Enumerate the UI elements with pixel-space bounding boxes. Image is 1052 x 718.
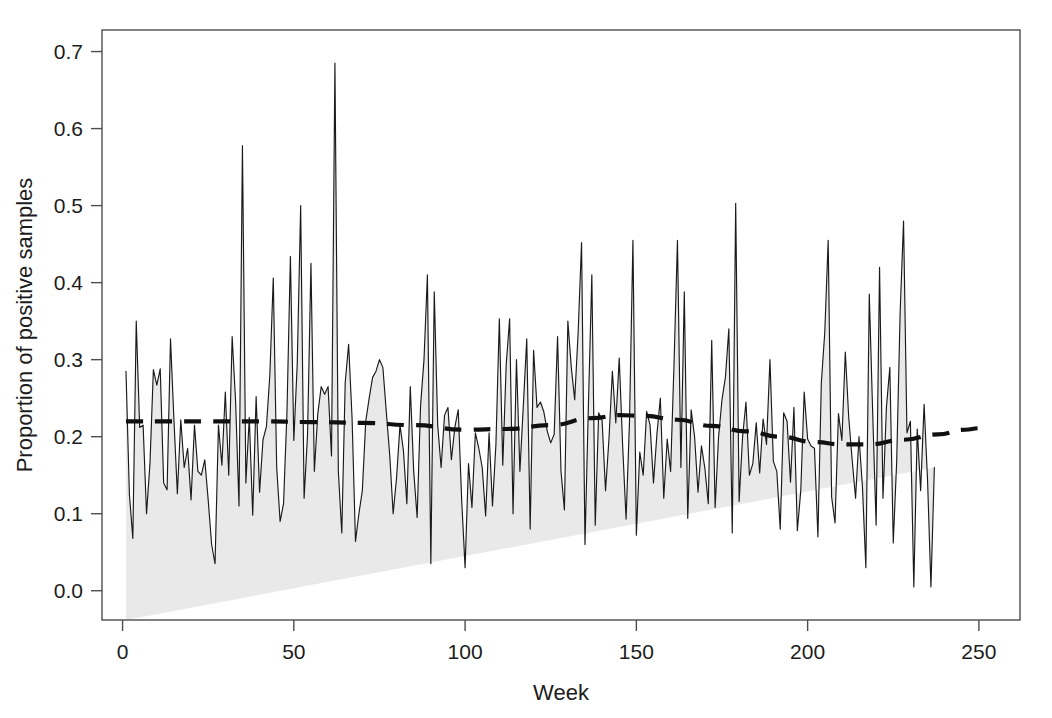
y-axis-ticks: 0.00.10.20.30.40.50.60.7: [54, 40, 102, 602]
y-tick-label: 0.3: [54, 348, 83, 371]
x-tick-label: 50: [282, 640, 305, 663]
y-tick-label: 0.5: [54, 194, 83, 217]
y-tick-label: 0.2: [54, 425, 83, 448]
x-tick-label: 250: [961, 640, 996, 663]
y-axis-title: Proportion of positive samples: [12, 178, 37, 473]
x-tick-label: 0: [117, 640, 129, 663]
x-axis-title: Week: [533, 680, 590, 705]
x-tick-label: 150: [619, 640, 654, 663]
y-tick-label: 0.4: [54, 271, 84, 294]
x-tick-label: 100: [448, 640, 483, 663]
y-tick-label: 0.6: [54, 117, 83, 140]
y-tick-label: 0.1: [54, 502, 83, 525]
y-tick-label: 0.0: [54, 579, 83, 602]
chart-svg: 0.00.10.20.30.40.50.60.7 050100150200250…: [0, 0, 1052, 718]
chart-figure: 0.00.10.20.30.40.50.60.7 050100150200250…: [0, 0, 1052, 718]
y-tick-label: 0.7: [54, 40, 83, 63]
x-axis-ticks: 050100150200250: [117, 620, 997, 663]
x-tick-label: 200: [790, 640, 825, 663]
